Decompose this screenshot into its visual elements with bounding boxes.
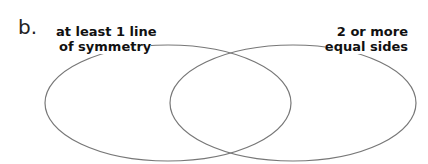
item-label: b. (18, 20, 37, 35)
left-set-label: at least 1 line of symmetry (56, 24, 157, 54)
right-set-label: 2 or more equal sides (325, 24, 408, 54)
left-set-label-line2: of symmetry (56, 39, 151, 54)
left-set-ellipse (45, 45, 291, 161)
right-set-label-line1: 2 or more (325, 24, 408, 39)
right-set-label-line2: equal sides (325, 39, 408, 54)
venn-diagram: b. at least 1 line of symmetry 2 or more… (0, 0, 428, 164)
right-set-ellipse (170, 45, 416, 161)
left-set-label-line1: at least 1 line (56, 24, 157, 39)
